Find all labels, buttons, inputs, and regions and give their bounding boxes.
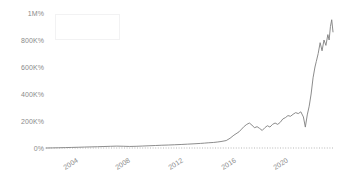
x-tick-label: 2020 [272,157,289,171]
chart-legend [55,14,120,40]
line-chart: 1M% 800K% 600K% 400K% 200K% 0% 2004 2008… [0,0,343,191]
x-tick-label: 2012 [167,157,184,171]
x-tick-label: 2008 [114,157,131,171]
x-tick-label: 2004 [62,157,79,171]
x-tick-label: 2016 [220,157,237,171]
legend-entry-list [56,15,119,19]
x-axis: 2004 2008 2012 2016 2020 [0,0,343,191]
